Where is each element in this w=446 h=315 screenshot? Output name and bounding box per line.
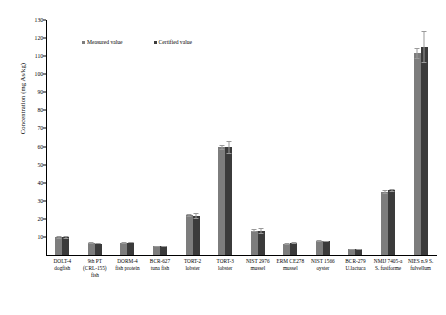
bar-group [79,20,112,255]
error-bar-cap [252,229,257,230]
bar-certified [95,244,102,255]
x-tick-label: BCR-627tuna fish [144,258,177,280]
error-bar-cap [382,190,387,191]
error-bar-cap [219,145,224,146]
error-bar-cap [128,242,133,243]
error-bar [326,241,327,242]
error-bar [417,48,418,59]
bar-group [241,20,274,255]
error-bar [196,213,197,220]
bar-certified [225,147,232,255]
error-bar-cap [187,216,192,217]
x-tick-label: NMIJ 7405-aS. fusiforme [372,258,405,280]
error-bar [98,243,99,244]
x-tick-label: DORM-4fish protein [111,258,144,280]
chart-legend: Measured value Certified value [82,39,192,45]
error-bar-cap [187,214,192,215]
error-bar [163,246,164,247]
bar-group [307,20,340,255]
x-axis-line [46,255,437,256]
bar-certified [290,243,297,255]
error-bar-cap [259,233,264,234]
bar-certified [193,216,200,255]
error-bar-cap [56,238,61,239]
bar-measured [186,215,193,255]
error-bar [286,243,287,245]
bar-measured [316,241,323,255]
bar-measured [88,243,95,255]
error-bar [391,189,392,192]
bar-group [46,20,79,255]
error-bar-cap [284,244,289,245]
error-bar [130,242,131,243]
error-bar-cap [226,141,231,142]
error-bar [351,249,352,250]
error-bar-cap [63,238,68,239]
error-bar [65,236,66,238]
error-bar-cap [161,246,166,247]
bar-measured [120,243,127,255]
bar-group [209,20,242,255]
x-tick-label: TORT-3lobster [209,258,242,280]
bar-group [339,20,372,255]
y-axis-title: Concentration (mg As/kg) [19,39,26,159]
error-bar [319,240,320,242]
error-bar-cap [415,48,420,49]
error-bar-cap [324,241,329,242]
bar-measured [153,246,160,255]
bar-group [144,20,177,255]
error-bar-cap [291,243,296,244]
legend-swatch-certified-icon [154,41,157,44]
error-bar [261,228,262,235]
error-bar [358,249,359,250]
bar-group [372,20,405,255]
error-bar [293,242,294,243]
bar-measured [55,237,62,255]
legend-item-measured: Measured value [82,39,123,45]
error-bar-cap [349,249,354,250]
error-bar-cap [194,218,199,219]
bar-group [274,20,307,255]
bar-measured [283,244,290,255]
error-bar [58,236,59,239]
legend-label-measured: Measured value [87,39,123,45]
error-bar-cap [252,231,257,232]
x-tick-label: TORT-2lobster [176,258,209,280]
x-tick-label: ERM CE278mussel [274,258,307,280]
error-bar [91,242,92,244]
error-bar-cap [422,31,427,32]
bar-certified [323,241,330,255]
bar-groups [46,20,437,255]
error-bar-cap [154,246,159,247]
bar-measured [251,231,258,255]
error-bar-cap [317,241,322,242]
legend-label-certified: Certified value [159,39,192,45]
error-bar [189,214,190,217]
plot-area: 130120110100908070605040302010 [46,20,437,255]
error-bar-cap [219,149,224,150]
error-bar-cap [389,189,394,190]
error-bar-cap [356,249,361,250]
bar-certified [160,246,167,255]
error-bar [228,141,229,155]
bar-certified [127,243,134,255]
error-bar [123,242,124,244]
error-bar-cap [89,243,94,244]
x-axis-labels: DOLT-4dogfish9th PT(CRL-155)fishDORM-4fi… [46,258,437,280]
bar-measured [348,249,355,255]
error-bar [384,190,385,194]
error-bar-cap [121,243,126,244]
x-tick-label: DOLT-4dogfish [46,258,79,280]
error-bar-cap [389,191,394,192]
legend-swatch-measured-icon [82,41,85,44]
bar-measured [218,147,225,255]
bar-group [404,20,437,255]
error-bar-cap [194,213,199,214]
error-bar [424,31,425,64]
x-tick-label: NIES n.9 S.fulvellum [404,258,437,280]
x-tick-label: 9th PT(CRL-155)fish [79,258,112,280]
error-bar-cap [226,153,231,154]
error-bar-cap [382,193,387,194]
x-tick-label: NIST 1566oyster [307,258,340,280]
bar-certified [258,231,265,255]
